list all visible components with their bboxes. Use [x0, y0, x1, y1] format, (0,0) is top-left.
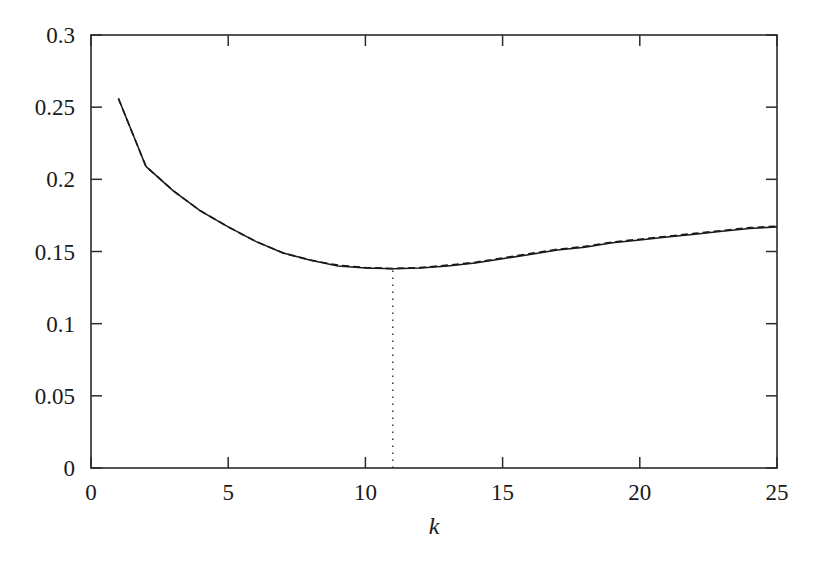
- y-tick-label: 0.2: [0, 168, 75, 191]
- y-axis-tick-marks: [91, 35, 777, 468]
- plot-canvas: [0, 0, 817, 564]
- solid-curve: [118, 99, 777, 269]
- x-axis-tick-marks: [91, 35, 777, 468]
- dashed-curve: [118, 99, 777, 269]
- x-axis-title: k: [429, 514, 440, 538]
- y-tick-label: 0.05: [0, 384, 75, 407]
- x-tick-label: 10: [354, 481, 377, 504]
- x-tick-label: 20: [628, 481, 651, 504]
- plot-frame: [91, 35, 777, 468]
- y-tick-label: 0.15: [0, 240, 75, 263]
- y-tick-label: 0.25: [0, 96, 75, 119]
- x-tick-label: 15: [491, 481, 514, 504]
- y-tick-label: 0: [0, 457, 75, 480]
- y-tick-label: 0.1: [0, 312, 75, 335]
- x-tick-label: 0: [85, 481, 97, 504]
- chart-figure: 00.050.10.150.20.250.3 0510152025 k: [0, 0, 817, 564]
- x-tick-label: 25: [766, 481, 789, 504]
- x-tick-label: 5: [222, 481, 234, 504]
- y-tick-label: 0.3: [0, 24, 75, 47]
